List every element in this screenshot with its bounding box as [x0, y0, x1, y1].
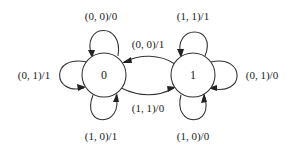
- state-0: 0: [82, 53, 126, 97]
- transition-label: (1, 1)/0: [132, 102, 165, 115]
- state-diagram: 0 1 (0, 0)/0 (0, 1)/1 (1, 0)/1 (0, 0)/1 …: [0, 0, 296, 147]
- state-label: 1: [190, 68, 196, 82]
- transition-label: (0, 0)/0: [85, 10, 118, 23]
- edge-1-to-0: [122, 56, 175, 64]
- edge-0-to-1: [121, 86, 176, 95]
- transition-label: (1, 0)/0: [177, 130, 210, 143]
- transition-label: (0, 1)/1: [18, 69, 50, 82]
- state-label: 0: [101, 68, 107, 82]
- arrowhead-icon: [122, 57, 132, 63]
- transition-label: (0, 0)/1: [132, 38, 164, 51]
- transition-label: (1, 0)/1: [85, 130, 117, 143]
- transition-label: (1, 1)/1: [177, 10, 209, 23]
- state-1: 1: [171, 53, 215, 97]
- transition-label: (0, 1)/0: [246, 69, 279, 82]
